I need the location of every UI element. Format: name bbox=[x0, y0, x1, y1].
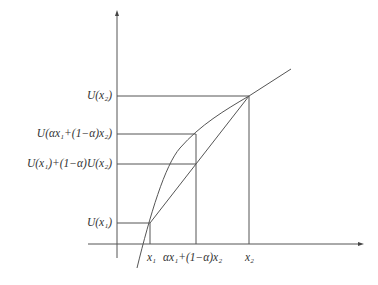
label-u-x1: U(x₁) bbox=[87, 217, 112, 229]
x-axis-arrow-icon bbox=[358, 242, 364, 246]
y-axis-arrow-icon bbox=[115, 10, 119, 16]
label-u-x2: U(x₂) bbox=[87, 90, 112, 102]
label-x1: x₁ bbox=[147, 252, 156, 264]
utility-diagram bbox=[0, 0, 378, 285]
chord-line bbox=[150, 96, 249, 223]
utility-curve bbox=[137, 69, 291, 268]
label-x2: x₂ bbox=[245, 252, 254, 264]
label-mix: αx₁+(1−α)x₂ bbox=[163, 252, 222, 264]
label-u-chord: U(x₁)+(1−α)U(x₂) bbox=[27, 158, 112, 170]
label-u-mix: U(αx₁+(1−α)x₂) bbox=[37, 128, 112, 140]
